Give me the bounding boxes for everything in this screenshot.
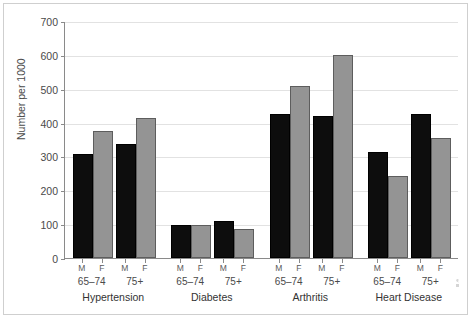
gridline [65, 56, 458, 57]
x-condition-label: Heart Disease [375, 292, 442, 303]
bar-hypertension-75+-f [136, 118, 156, 259]
y-tick-mark [61, 90, 65, 91]
plot-area: 0100200300400500600700 [64, 22, 458, 259]
x-age-group-label: 75+ [225, 277, 242, 287]
x-sex-label: M [318, 264, 325, 273]
x-sex-label: F [142, 264, 147, 273]
x-condition-label: Diabetes [191, 292, 232, 303]
x-sex-label: F [438, 264, 443, 273]
x-age-group-label: 75+ [126, 277, 143, 287]
x-axis-tick-area: MFMF65–7475+HypertensionMFMF65–7475+Diab… [64, 259, 458, 319]
x-age-group-label: 65–74 [176, 277, 204, 287]
x-sex-label: M [121, 264, 128, 273]
x-sex-label: F [296, 264, 301, 273]
x-sex-label: M [220, 264, 227, 273]
x-age-group-label: 65–74 [275, 277, 303, 287]
gridline [65, 124, 458, 125]
y-axis-title: Number per 1000 [16, 58, 27, 140]
bar-arthritis-75+-f [333, 55, 353, 258]
x-sex-label: F [241, 264, 246, 273]
bar-heart-disease-75+-f [431, 138, 451, 258]
x-age-group-label: 75+ [422, 277, 439, 287]
y-tick-label: 600 [40, 51, 58, 62]
bar-heart-disease-6574-m [368, 152, 388, 258]
x-sex-label: F [395, 264, 400, 273]
y-tick-label: 200 [40, 186, 58, 197]
x-sex-label: M [78, 264, 85, 273]
y-tick-mark [61, 157, 65, 158]
y-tick-label: 500 [40, 84, 58, 95]
x-sex-label: M [177, 264, 184, 273]
x-condition-label: Hypertension [82, 292, 144, 303]
y-tick-mark [61, 124, 65, 125]
bar-diabetes-75+-m [214, 221, 234, 258]
scan-artifact-icon [455, 279, 464, 291]
bar-diabetes-75+-f [234, 229, 254, 258]
x-sex-label: F [339, 264, 344, 273]
bar-diabetes-6574-f [191, 225, 211, 258]
bar-chart-figure: Number per 1000 0100200300400500600700 M… [0, 0, 472, 319]
x-sex-label: M [417, 264, 424, 273]
bar-heart-disease-75+-m [411, 114, 431, 258]
bar-diabetes-6574-m [171, 225, 191, 258]
bar-arthritis-6574-f [290, 86, 310, 258]
bar-hypertension-75+-m [116, 144, 136, 258]
y-tick-label: 300 [40, 152, 58, 163]
x-sex-label: F [99, 264, 104, 273]
bar-arthritis-75+-m [313, 116, 333, 258]
x-age-group-label: 65–74 [78, 277, 106, 287]
bar-arthritis-6574-m [270, 114, 290, 258]
x-age-group-label: 75+ [323, 277, 340, 287]
bar-heart-disease-6574-f [388, 176, 408, 258]
y-tick-label: 700 [40, 17, 58, 28]
y-tick-label: 0 [52, 254, 58, 265]
y-tick-label: 400 [40, 118, 58, 129]
bar-hypertension-6574-m [73, 154, 93, 258]
x-condition-label: Arthritis [292, 292, 328, 303]
x-sex-label: M [275, 264, 282, 273]
x-sex-label: F [198, 264, 203, 273]
y-tick-label: 100 [40, 220, 58, 231]
y-tick-mark [61, 56, 65, 57]
bar-hypertension-6574-f [93, 131, 113, 258]
y-tick-mark [61, 225, 65, 226]
x-sex-label: M [374, 264, 381, 273]
x-age-group-label: 65–74 [373, 277, 401, 287]
y-tick-mark [61, 22, 65, 23]
y-tick-mark [61, 191, 65, 192]
gridline [65, 22, 458, 23]
gridline [65, 90, 458, 91]
